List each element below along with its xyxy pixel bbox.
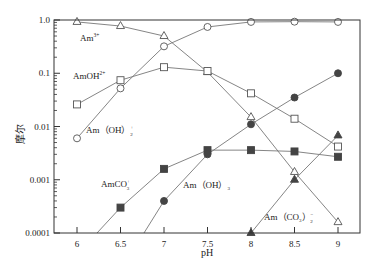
marker-AmCO3+-square-icon [161, 165, 168, 172]
x-tick-label: 6 [75, 239, 80, 249]
marker-AmOH2+-square-icon [291, 115, 298, 122]
marker-AmOH2+-square-icon [74, 101, 81, 108]
marker-AmCO3+-square-icon [117, 204, 124, 211]
marker-Am(OH)2+-circle-icon [291, 18, 298, 25]
marker-AmCO3+-square-icon [248, 147, 255, 154]
x-tick-label: 8 [249, 239, 254, 249]
label-amco3: AmCO+3 [101, 179, 130, 191]
chart: 1.00.10.010.0010.000166.577.588.59 摩尔 pH… [0, 0, 380, 271]
label-am3: Am3+ [80, 32, 99, 43]
marker-Am3+-triangle-icon [117, 22, 125, 29]
label-amoh: AmOH2+ [73, 70, 105, 81]
y-tick-label: 0.01 [34, 122, 50, 132]
marker-Am(OH)3-circle-icon [161, 197, 168, 204]
marker-Am(CO3)2--triangle-icon [334, 131, 342, 138]
marker-Am(OH)2+-circle-icon [248, 18, 255, 25]
marker-AmOH2+-square-icon [204, 68, 211, 75]
series-line-Am(OH)2+ [77, 22, 338, 139]
marker-AmCO3+-square-icon [335, 153, 342, 160]
marker-AmOH2+-square-icon [335, 143, 342, 150]
y-tick-label: 0.001 [30, 175, 50, 185]
label-amco32: Am（CO3）−2 [264, 212, 314, 224]
y-tick-label: 0.1 [39, 68, 50, 78]
label-amoh3: Am（OH）3 [183, 180, 231, 191]
marker-Am(OH)3-circle-icon [204, 151, 211, 158]
x-tick-label: 8.5 [289, 239, 301, 249]
label-amoh2: Am（OH）+2 [86, 125, 134, 137]
x-tick-label: 7 [162, 239, 167, 249]
x-tick-label: 6.5 [115, 239, 127, 249]
marker-AmOH2+-square-icon [117, 77, 124, 84]
marker-Am(OH)2+-circle-icon [74, 135, 81, 142]
marker-Am(OH)2+-circle-icon [204, 23, 211, 30]
marker-AmCO3+-square-icon [291, 148, 298, 155]
marker-AmOH2+-square-icon [248, 90, 255, 97]
marker-Am(OH)2+-circle-icon [161, 43, 168, 50]
marker-AmOH2+-square-icon [161, 64, 168, 71]
marker-Am(OH)2+-circle-icon [335, 18, 342, 25]
y-tick-label: 0.0001 [25, 228, 50, 238]
marker-Am(OH)2+-circle-icon [117, 85, 124, 92]
y-tick-label: 1.0 [39, 15, 51, 25]
y-axis-label: 摩尔 [14, 124, 26, 144]
x-axis-label: pH [201, 247, 213, 258]
marker-Am(OH)3-circle-icon [248, 121, 255, 128]
marker-Am3+-triangle-icon [73, 17, 81, 24]
marker-Am(OH)3-circle-icon [335, 70, 342, 77]
marker-Am(OH)3-circle-icon [291, 94, 298, 101]
x-tick-label: 9 [336, 239, 341, 249]
